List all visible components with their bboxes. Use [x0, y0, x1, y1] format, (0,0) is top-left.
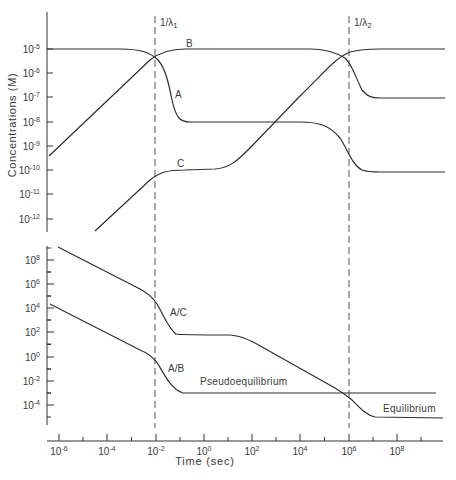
x-tick-label: 106	[341, 445, 356, 457]
y-tick-label: 10-10	[19, 164, 40, 176]
y-tick-label: 10-11	[19, 188, 40, 200]
y-tick-label: 104	[25, 302, 40, 314]
y-tick-label: 100	[25, 351, 40, 363]
label-A: A	[175, 89, 182, 100]
label-equilibrium: Equilibrium	[383, 403, 436, 414]
curve-B	[49, 49, 445, 156]
curve-A	[47, 49, 445, 172]
kinetics-chart: 10-510-610-710-810-910-1010-1110-12 Conc…	[0, 0, 456, 480]
y-tick-label: 10-12	[19, 213, 40, 225]
y-tick-label: 10-7	[23, 91, 40, 103]
label-C: C	[177, 158, 184, 169]
x-tick-label: 102	[244, 445, 259, 457]
y-tick-label: 102	[25, 326, 40, 338]
x-tick-label: 10-2	[147, 445, 164, 457]
x-tick-label: 108	[389, 445, 404, 457]
x-tick-label: 104	[292, 445, 307, 457]
y-tick-label: 10-2	[23, 375, 40, 387]
label-A-over-C: A/C	[170, 307, 187, 318]
label-B: B	[186, 38, 193, 49]
y-tick-label: 106	[25, 278, 40, 290]
label-pseudoequilibrium: Pseudoequilibrium	[200, 376, 287, 387]
top-panel: 10-510-610-710-810-910-1010-1110-12 Conc…	[6, 12, 445, 232]
x-ticks: 10-610-410-2100102104106108	[50, 434, 421, 457]
y-tick-label: 10-6	[23, 67, 40, 79]
label-lambda1: 1/λ1	[160, 17, 178, 30]
x-axis-label: Time (sec)	[175, 455, 235, 467]
bottom-y-ticks: 10810610410210010-210-4	[23, 248, 54, 417]
y-tick-label: 10-4	[23, 399, 40, 411]
top-y-ticks: 10-510-610-710-810-910-1010-1110-12	[19, 43, 53, 225]
y-tick-label: 10-9	[23, 140, 40, 152]
y-tick-label: 10-5	[23, 43, 40, 55]
label-A-over-B: A/B	[168, 363, 184, 374]
bottom-panel: 10810610410210010-210-4 A/C A/B Pseudoeq…	[23, 246, 443, 467]
curve-A-over-C	[58, 247, 443, 418]
curve-C	[95, 49, 445, 231]
x-tick-label: 10-4	[98, 445, 115, 457]
label-lambda2: 1/λ2	[354, 17, 372, 30]
y-tick-label: 108	[25, 254, 40, 266]
y-axis-label: Concentrations (M)	[6, 73, 18, 177]
x-tick-label: 10-6	[50, 445, 67, 457]
y-tick-label: 10-8	[23, 116, 40, 128]
